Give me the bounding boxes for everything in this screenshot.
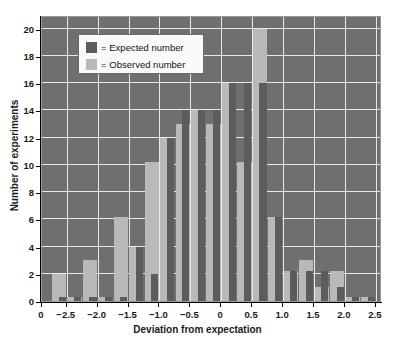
bar-expected: [213, 110, 220, 301]
x-tick: [313, 303, 314, 307]
legend-item-observed: = Observed number: [86, 56, 203, 73]
y-tick-label: 2: [12, 269, 34, 280]
gridline-horizontal: [42, 109, 380, 110]
x-tick: [251, 303, 252, 307]
bar-expected: [136, 247, 143, 301]
x-tick: [97, 303, 98, 307]
gridline-horizontal: [42, 82, 380, 83]
gridline-vertical: [67, 17, 68, 301]
y-axis-line: [40, 16, 41, 303]
gridline-vertical: [314, 17, 315, 301]
x-tick-label: −2.5: [49, 309, 83, 320]
x-tick-label: 0: [203, 309, 237, 320]
bar-expected: [337, 287, 344, 301]
bar-expected: [151, 274, 158, 301]
bar-expected: [105, 297, 112, 301]
legend-equals-expected: =: [101, 43, 106, 53]
y-tick: [36, 275, 40, 276]
x-tick-label: 2.0: [327, 309, 361, 320]
gridline-vertical: [345, 17, 346, 301]
bar-expected: [198, 110, 205, 301]
x-tick-label: 1.5: [296, 309, 330, 320]
x-tick: [158, 303, 159, 307]
bar-expected: [306, 271, 313, 301]
x-tick: [220, 303, 221, 307]
x-tick-label: 2.5: [358, 309, 392, 320]
y-tick-label: 20: [12, 24, 34, 35]
y-axis-title: Number of experiments: [9, 56, 20, 256]
bar-expected: [368, 297, 375, 301]
bar-expected: [352, 297, 359, 301]
y-tick: [36, 302, 40, 303]
x-axis-line: [40, 302, 382, 303]
chart-legend: = Expected number = Observed number: [78, 34, 204, 74]
x-tick-label: 1.0: [265, 309, 299, 320]
legend-equals-observed: =: [101, 60, 106, 70]
bar-expected: [244, 83, 251, 301]
bar-expected: [321, 271, 328, 301]
gridline-horizontal: [42, 28, 380, 29]
legend-label-expected: Expected number: [109, 42, 183, 53]
legend-label-observed: Observed number: [109, 59, 185, 70]
y-tick: [36, 139, 40, 140]
bar-expected: [259, 83, 266, 301]
x-tick-label: −0.5: [172, 309, 206, 320]
y-tick: [36, 84, 40, 85]
bar-expected: [120, 297, 127, 301]
x-tick-label: 0.5: [234, 309, 268, 320]
y-tick: [36, 30, 40, 31]
x-tick: [41, 303, 42, 307]
x-tick-label: −1.0: [141, 309, 175, 320]
x-tick: [344, 303, 345, 307]
gridline-vertical: [376, 17, 377, 301]
bar-expected: [74, 297, 81, 301]
x-tick: [282, 303, 283, 307]
expected-swatch: [86, 42, 97, 53]
bar-expected: [89, 297, 96, 301]
x-tick: [189, 303, 190, 307]
y-tick: [36, 220, 40, 221]
legend-item-expected: = Expected number: [86, 39, 203, 56]
bar-expected: [290, 271, 297, 301]
y-tick: [36, 248, 40, 249]
y-tick: [36, 166, 40, 167]
gridline-vertical: [283, 17, 284, 301]
bar-expected: [229, 83, 236, 301]
bar-expected: [275, 217, 282, 301]
x-tick: [66, 303, 67, 307]
x-tick-label: −2.0: [80, 309, 114, 320]
y-tick: [36, 57, 40, 58]
bar-expected: [59, 297, 66, 301]
bar-expected: [167, 138, 174, 301]
bar-observed: [114, 217, 128, 301]
y-tick: [36, 111, 40, 112]
x-tick-label: −1.5: [111, 309, 145, 320]
chart-figure: 0−2.5−2.0−1.5−1.0−0.500.51.01.52.02.5024…: [0, 0, 395, 350]
x-tick: [375, 303, 376, 307]
x-axis-title: Deviation from expectation: [0, 324, 395, 335]
x-tick: [128, 303, 129, 307]
y-tick: [36, 193, 40, 194]
bar-observed: [83, 260, 97, 301]
bar-expected: [182, 110, 189, 301]
observed-swatch: [86, 59, 97, 70]
y-tick-label: 0: [12, 296, 34, 307]
